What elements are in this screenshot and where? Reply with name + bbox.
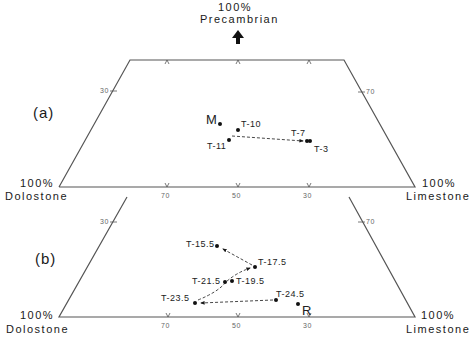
point-label-R: R	[302, 303, 311, 318]
tick-b-left-30: 30	[100, 218, 109, 225]
corner-a-right-name: Limestone	[406, 190, 470, 203]
tick-a-30: 30	[303, 192, 312, 199]
point-label-T-10: T-10	[241, 119, 261, 129]
corner-a-left-name: Dolostone	[5, 190, 68, 203]
tick-a-70: 70	[161, 192, 170, 199]
tick-b-70: 70	[161, 322, 170, 329]
corner-a-right-pct: 100%	[422, 177, 456, 190]
corner-b-right-pct: 100%	[421, 309, 455, 322]
point-label-T-11: T-11	[207, 141, 226, 151]
apex-name: Precambrian	[200, 13, 279, 26]
panel-b-label: (b)	[35, 250, 56, 267]
tick-b-right-70: 70	[366, 218, 375, 225]
point-label-T-15.5: T-15.5	[186, 239, 215, 249]
point-label-T-7: T-7	[291, 128, 306, 138]
panel-a-label: (a)	[33, 104, 54, 121]
point-label-T-17.5: T-17.5	[258, 257, 287, 267]
tick-a-right-70: 70	[366, 88, 375, 95]
tick-b-30: 30	[303, 322, 312, 329]
panel-a-frame	[59, 60, 415, 187]
tick-b-50: 50	[232, 322, 241, 329]
panel-a-ticks	[110, 60, 365, 187]
corner-b-right-name: Limestone	[406, 323, 470, 336]
point-label-T-21.5: T-21.5	[192, 276, 221, 286]
panel-b-ticks	[110, 222, 365, 317]
point-label-T-3: T-3	[314, 144, 329, 154]
corner-b-left-name: Dolostone	[6, 323, 69, 336]
corner-b-left-pct: 100%	[20, 309, 54, 322]
apex-arrow-icon	[232, 30, 244, 44]
point-label-T-23.5: T-23.5	[161, 293, 190, 303]
point-label-T-19.5: T-19.5	[236, 276, 265, 286]
ternary-diagram	[0, 0, 475, 340]
corner-a-left-pct: 100%	[20, 177, 54, 190]
point-label-M: M	[206, 112, 217, 127]
tick-a-50: 50	[232, 192, 241, 199]
point-label-T-24.5: T-24.5	[276, 289, 305, 299]
tick-a-left-30: 30	[100, 87, 109, 94]
